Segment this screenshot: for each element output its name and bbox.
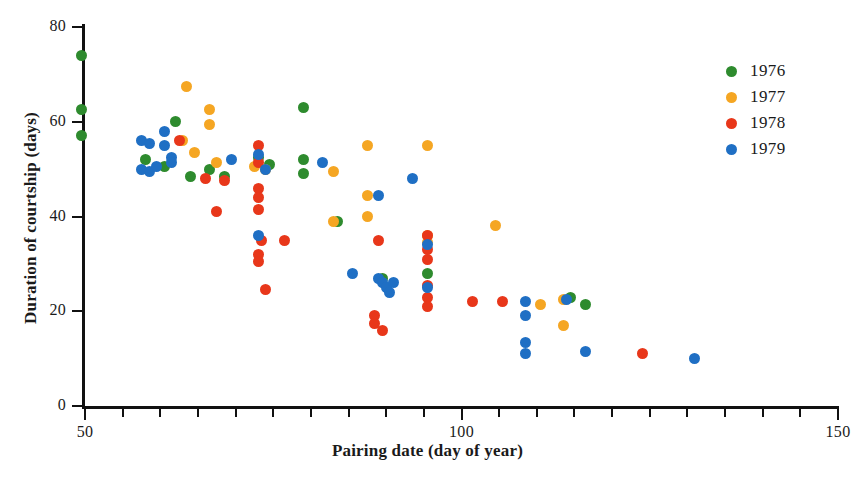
x-tick [686,409,688,417]
data-point [580,299,591,310]
legend-swatch-icon [726,92,737,103]
y-tick [72,26,82,28]
data-point [253,230,264,241]
data-point [328,166,339,177]
x-tick [837,409,839,420]
legend: 1976197719781979 [726,58,836,162]
data-point [204,119,215,130]
data-point [520,337,531,348]
y-tick [72,405,82,407]
x-tick [272,409,274,417]
data-point [362,190,373,201]
data-point [253,256,264,267]
data-point [211,157,222,168]
legend-swatch-icon [726,144,737,155]
legend-swatch-icon [726,118,737,129]
x-tick-label: 100 [432,423,492,441]
y-tick-label: 80 [26,17,66,35]
data-point [279,235,290,246]
data-point [347,268,358,279]
legend-label: 1976 [750,61,786,81]
data-point [362,140,373,151]
data-point [422,140,433,151]
y-axis-title: Duration of courtship (days) [21,48,41,388]
x-tick [799,409,801,417]
scatter-plot-figure: 50100150 020406080 Pairing date (day of … [0,0,855,480]
y-tick [72,121,82,123]
x-axis-title: Pairing date (day of year) [0,441,855,461]
data-point [181,81,192,92]
data-point [328,216,339,227]
x-tick-label: 150 [808,423,855,441]
data-point [253,192,264,203]
x-tick [122,409,124,417]
y-tick [72,216,82,218]
data-point [144,138,155,149]
data-point [166,157,177,168]
y-tick [72,310,82,312]
data-point [200,173,211,184]
data-point [373,190,384,201]
legend-label: 1978 [750,113,786,133]
legend-item-1977[interactable]: 1977 [726,84,836,110]
data-point [260,164,271,175]
data-point [189,147,200,158]
x-tick [498,409,500,417]
data-point [317,157,328,168]
x-tick [84,409,86,420]
legend-item-1979[interactable]: 1979 [726,136,836,162]
caption-sliver [40,470,740,480]
data-point [174,135,185,146]
data-point [253,204,264,215]
legend-swatch-icon [726,66,737,77]
x-tick-label: 50 [55,423,115,441]
data-point [373,235,384,246]
data-point [159,140,170,151]
data-point [298,154,309,165]
legend-label: 1979 [750,139,786,159]
legend-item-1978[interactable]: 1978 [726,110,836,136]
x-tick [197,409,199,417]
y-tick-label: 0 [26,396,66,414]
legend-item-1976[interactable]: 1976 [726,58,836,84]
x-tick [423,409,425,417]
data-point [298,102,309,113]
x-tick [649,409,651,417]
x-tick [348,409,350,417]
x-tick [159,409,161,417]
x-tick [611,409,613,417]
data-point [159,126,170,137]
x-tick [536,409,538,417]
x-tick [724,409,726,417]
data-point [535,299,546,310]
data-point [362,211,373,222]
legend-label: 1977 [750,87,786,107]
data-point [422,254,433,265]
x-tick [762,409,764,417]
x-tick [235,409,237,417]
data-point [185,171,196,182]
x-tick [385,409,387,417]
x-tick [573,409,575,417]
x-tick [461,409,463,420]
data-point [76,50,87,61]
data-point [377,325,388,336]
data-point [558,320,569,331]
data-point [422,268,433,279]
x-tick [310,409,312,417]
